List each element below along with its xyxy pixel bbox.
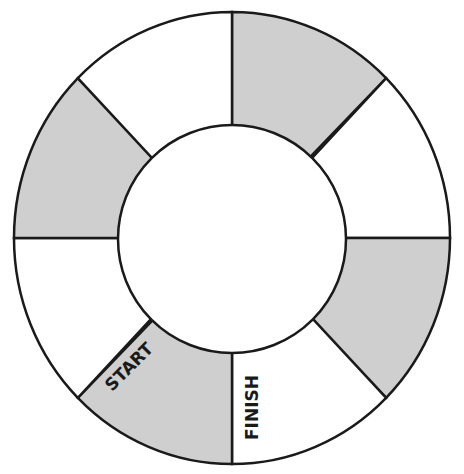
- finish-label: FINISH: [242, 375, 262, 440]
- center-circle: [118, 125, 346, 353]
- circular-game-board: START FINISH: [0, 0, 464, 474]
